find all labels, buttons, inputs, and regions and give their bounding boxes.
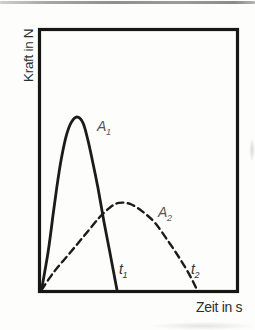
curve-a1-letter: A (97, 118, 106, 134)
t1-subscript: 1 (123, 270, 128, 280)
curve-a2-label: A2 (158, 204, 172, 220)
t2-label: t2 (191, 261, 199, 277)
t1-label: t1 (119, 261, 127, 277)
curve-a2-letter: A (158, 204, 167, 220)
curve-A1 (42, 117, 118, 290)
y-axis-label: Kraft in N (21, 29, 36, 82)
x-axis-label: Zeit in s (196, 299, 242, 315)
scan-artifact-right (249, 138, 255, 162)
curve-a1-subscript: 1 (106, 127, 111, 137)
curve-a1-label: A1 (97, 118, 111, 134)
figure: Kraft in N Zeit in s A1 A2 t1 t2 (0, 0, 255, 330)
curve-a2-subscript: 2 (167, 213, 172, 223)
t2-subscript: 2 (195, 270, 200, 280)
chart-svg (0, 0, 255, 330)
scan-artifact-bottom (150, 322, 255, 330)
